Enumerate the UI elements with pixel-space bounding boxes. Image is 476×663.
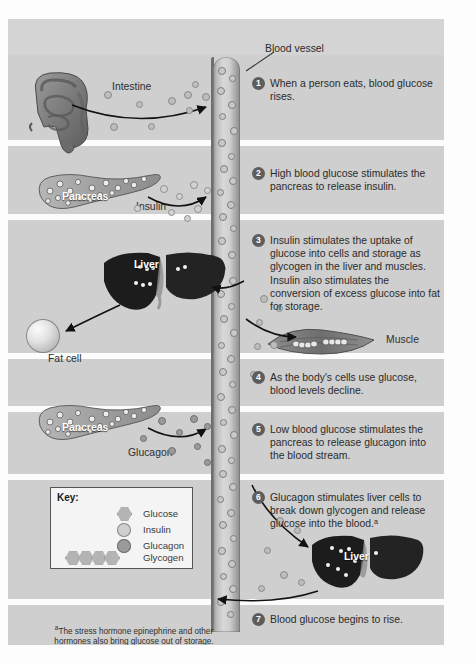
liver-illustration-top [100, 247, 228, 317]
step-2: 2 High blood glucose stimulates the panc… [252, 167, 442, 193]
muscle-label: Muscle [386, 334, 419, 345]
key-label-glycogen: Glycogen [143, 552, 184, 563]
glucose-molecule [168, 97, 176, 105]
glucose-molecule [104, 91, 112, 99]
glucose-molecule [254, 343, 261, 350]
glucose-molecule [298, 579, 305, 586]
step-2-text: High blood glucose stimulates the pancre… [270, 167, 442, 193]
glucose-hexagon-icon [117, 507, 132, 521]
glucagon-molecule [140, 435, 147, 442]
key-legend-box: Key: Glucose Insulin Glucagon Glycogen [50, 487, 193, 569]
glucagon-molecule [168, 447, 176, 455]
step-4: 4 As the body's cells use glucose, blood… [252, 371, 442, 397]
footnote-text: The stress hormone epinephrine and other… [54, 627, 213, 645]
footnote: aThe stress hormone epinephrine and othe… [36, 623, 232, 645]
insulin-molecule [204, 187, 211, 194]
glucose-molecule [186, 107, 193, 114]
blood-vessel-leader-line [240, 49, 276, 75]
intestine-illustration [26, 67, 98, 155]
liver-label-bottom: Liver [344, 551, 369, 562]
insulin-molecule [184, 215, 191, 222]
insulin-molecule [194, 205, 202, 213]
insulin-molecule [176, 193, 183, 200]
key-item-glycogen: Glycogen [103, 550, 191, 566]
insulin-molecule [168, 209, 175, 216]
glucose-molecule [192, 81, 199, 88]
step-4-text: As the body's cells use glucose, blood l… [270, 371, 442, 397]
key-label-insulin: Insulin [143, 524, 171, 535]
glucagon-molecule [204, 459, 211, 466]
muscle-illustration [266, 324, 376, 358]
insulin-glucagon-diagram: Blood vessel Intestine Pa [8, 19, 458, 645]
step-2-badge: 2 [252, 167, 265, 180]
step-5-text: Low blood glucose stimulates the pancrea… [270, 423, 442, 463]
key-item-glucose: Glucose [103, 506, 191, 522]
glucagon-molecule [204, 423, 211, 430]
glucose-molecule [256, 319, 263, 326]
step-7-badge: 7 [252, 613, 265, 626]
pancreas-label-top: Pancreas [62, 191, 108, 202]
liver-label-top: Liver [134, 259, 159, 270]
key-item-insulin: Insulin [103, 522, 191, 538]
step-3: 3 Insulin stimulates the uptake of gluco… [252, 234, 442, 313]
fat-cell-illustration [26, 319, 60, 353]
glucose-molecule [136, 101, 143, 108]
source-citation: Understanding Nutrition, 11th ed, Whitne… [457, 96, 458, 349]
key-title: Key: [57, 492, 79, 503]
insulin-molecule [160, 185, 168, 193]
glucagon-molecule [176, 429, 183, 436]
step-1: 1 When a person eats, blood glucose rise… [252, 77, 442, 103]
liver-illustration-bottom [308, 531, 426, 593]
right-margin [444, 19, 458, 645]
step-7: 7 Blood glucose begins to rise. [252, 613, 442, 626]
step-6-text: Glucagon stimulates liver cells to break… [270, 491, 442, 531]
step-5-badge: 5 [252, 423, 265, 436]
intestine-label: Intestine [112, 81, 151, 92]
glucagon-molecule [158, 417, 166, 425]
glucose-molecule [258, 585, 265, 592]
glucagon-molecule [194, 443, 201, 450]
glucose-molecule [264, 547, 271, 554]
insulin-molecule [190, 181, 198, 189]
step-4-badge: 4 [252, 371, 265, 384]
glucose-molecule [148, 123, 155, 130]
fat-cell-label: Fat cell [48, 353, 82, 364]
glucose-molecule [270, 341, 278, 349]
glucagon-molecule [190, 415, 198, 423]
step-5: 5 Low blood glucose stimulates the pancr… [252, 423, 442, 463]
insulin-molecule [134, 205, 141, 212]
step-6: 6 Glucagon stimulates liver cells to bre… [252, 491, 442, 531]
glucose-molecule [202, 93, 210, 101]
pancreas-label-bottom: Pancreas [62, 422, 108, 433]
glucose-molecule [184, 91, 192, 99]
glucose-molecule [280, 571, 288, 579]
glucagon-label: Glucagon [128, 447, 172, 458]
insulin-circle-icon [117, 523, 131, 537]
step-1-text: When a person eats, blood glucose rises. [270, 77, 442, 103]
key-label-glucose: Glucose [143, 508, 178, 519]
step-3-text: Insulin stimulates the uptake of glucose… [270, 234, 442, 313]
step-1-badge: 1 [252, 77, 265, 90]
step-7-text: Blood glucose begins to rise. [270, 613, 442, 626]
step-6-badge: 6 [252, 491, 265, 504]
blood-vessel [213, 57, 240, 632]
step-3-badge: 3 [252, 234, 265, 247]
glycogen-chain-icon [65, 551, 139, 565]
glucose-molecule [110, 123, 118, 131]
